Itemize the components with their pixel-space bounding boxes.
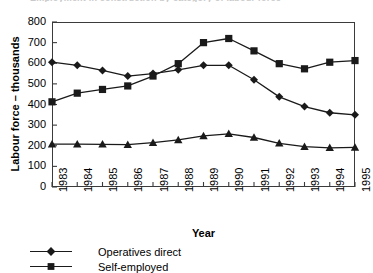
data-point [124,82,131,89]
legend-label: Self-employed [98,261,168,273]
series-square [48,35,358,106]
data-point [326,59,333,66]
data-point [149,72,156,79]
x-tick-label: 1994 [335,168,346,192]
y-tick-label: 500 [4,78,46,89]
x-tick-label: 1988 [184,168,195,192]
diamond-marker-icon [28,244,74,259]
x-tick-label: 1987 [159,168,170,192]
series-triangle [48,130,359,152]
y-tick-label: 400 [4,99,46,110]
data-point [275,93,283,101]
x-tick-label: 1995 [361,168,372,192]
data-point [225,61,233,69]
x-tick-label: 1991 [260,168,271,192]
data-point [301,65,308,72]
legend-item-self-employed[interactable]: Self-employed [28,259,358,273]
x-tick-label: 1984 [83,168,94,192]
data-series-layer [48,35,359,151]
data-point [74,90,81,97]
data-point [48,58,56,66]
data-point [99,86,106,93]
data-point [250,47,257,54]
data-point [124,72,132,80]
chart-figure: Employment in construction by category o… [0,0,373,273]
legend-label: Operatives direct [98,246,181,258]
x-tick-label: 1986 [133,168,144,192]
square-marker-icon [28,259,74,273]
data-point [276,60,283,67]
chart-legend: Operatives direct Self-employed [28,244,358,273]
y-tick-label: 600 [4,57,46,68]
data-point [73,61,81,69]
y-tick-label: 200 [4,140,46,151]
data-point [200,61,208,69]
x-axis-title: Year [52,227,355,239]
y-tick-label: 100 [4,160,46,171]
data-point [225,130,233,138]
x-tick-label: 1993 [310,168,321,192]
y-tick-label: 700 [4,37,46,48]
data-point [48,98,55,105]
x-tick-label: 1992 [285,168,296,192]
data-point [301,103,309,111]
data-point [200,39,207,46]
data-point [250,76,258,84]
legend-item-operatives-direct[interactable]: Operatives direct [28,244,358,259]
x-tick-label: 1989 [209,168,220,192]
x-tick-label: 1983 [58,168,69,192]
data-point [175,60,182,67]
data-point [351,57,358,64]
data-point [225,35,232,42]
data-point [351,111,359,119]
axis-ticks [52,22,355,187]
x-tick-label: 1990 [234,168,245,192]
data-point [99,66,107,74]
x-tick-label: 1985 [108,168,119,192]
y-tick-label: 300 [4,119,46,130]
y-tick-label: 800 [4,16,46,27]
y-tick-label: 0 [4,181,46,192]
data-point [326,109,334,117]
